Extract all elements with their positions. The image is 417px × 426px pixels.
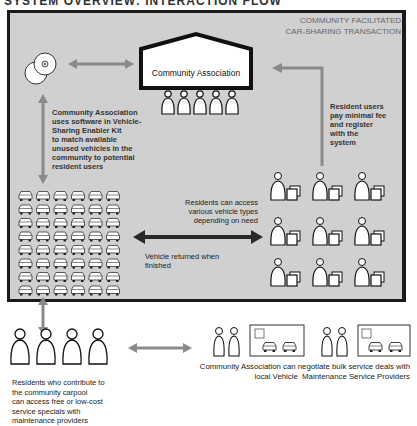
arrow-vehicle-exchange xyxy=(133,230,263,244)
annotation-line: community to potential xyxy=(52,153,141,162)
software-discs xyxy=(24,52,60,86)
annotation-line: various vehicle types xyxy=(170,207,258,216)
annotation-line: uses software in Vehicle- xyxy=(52,117,141,126)
double-arrow-icon xyxy=(128,342,192,354)
software-annotation: Community Association uses software in V… xyxy=(52,108,141,171)
page-header-title: SYSTEM OVERVIEW: INTERACTION FLOW xyxy=(4,0,282,8)
annotation-line: Community Association can negotiate bulk… xyxy=(196,362,410,372)
association-members xyxy=(160,90,240,118)
elbow-arrow-icon xyxy=(272,62,328,168)
annotation-line: the community carpool xyxy=(12,388,105,398)
annotation-line: unused vehicles in the xyxy=(52,144,141,153)
annotation-line: pay minimal fee xyxy=(330,111,386,120)
double-arrow-icon xyxy=(68,58,134,70)
annotation-line: to match available xyxy=(52,135,141,144)
person-icon xyxy=(10,328,110,368)
access-annotation: Residents can access various vehicle typ… xyxy=(170,198,258,225)
arrow-software-association xyxy=(68,58,134,70)
car-icon xyxy=(19,192,120,296)
double-arrow-icon xyxy=(133,230,263,244)
annotation-line: Residents can access xyxy=(170,198,258,207)
annotation-line: and register xyxy=(330,120,386,129)
return-annotation: Vehicle returned when finished xyxy=(145,252,219,270)
resident-users-grid xyxy=(270,172,400,292)
arrow-contributors-providers xyxy=(128,342,192,354)
annotation-line: finished xyxy=(145,261,219,270)
contributors-annotation: Residents who contribute to the communit… xyxy=(12,378,105,426)
people-group-icon xyxy=(160,90,240,118)
providers-annotation: Community Association can negotiate bulk… xyxy=(196,362,410,382)
annotation-line: Sharing Enabler Kit xyxy=(52,126,141,135)
annotation-line: resident users xyxy=(52,162,141,171)
annotation-line: system xyxy=(330,138,386,147)
service-shop-icon xyxy=(212,324,412,358)
disc-icon xyxy=(24,52,60,86)
maintenance-providers xyxy=(212,324,412,358)
arrow-software-vehicles xyxy=(37,94,49,184)
house-icon xyxy=(138,32,254,92)
community-association-building xyxy=(138,32,254,92)
contributors-group xyxy=(10,328,110,368)
vehicle-pool xyxy=(18,190,124,298)
car-grid xyxy=(18,190,124,298)
annotation-line: local Vehicle Maintenance Service Provid… xyxy=(196,372,410,382)
arrow-fee-registration xyxy=(272,62,328,168)
annotation-line: Community Association xyxy=(52,108,141,117)
fee-annotation: Resident users pay minimal fee and regis… xyxy=(330,102,386,147)
annotation-line: Vehicle returned when xyxy=(145,252,219,261)
annotation-line: with the xyxy=(330,129,386,138)
annotation-line: Residents who contribute to xyxy=(12,378,105,388)
community-association-label: Community Association xyxy=(148,68,244,78)
annotation-line: can access free or low-cost xyxy=(12,397,105,407)
annotation-line: depending on need xyxy=(170,216,258,225)
annotation-line: maintenance providers xyxy=(12,416,105,426)
panel-title: COMMUNITY FACILITATED CAR-SHARING TRANSA… xyxy=(286,15,401,37)
annotation-line: service specials with xyxy=(12,407,105,417)
vertical-double-arrow-icon xyxy=(37,94,49,184)
person-with-document-icon xyxy=(270,172,400,292)
annotation-line: Resident users xyxy=(330,102,386,111)
panel-title-line-1: COMMUNITY FACILITATED xyxy=(286,15,401,26)
panel-title-line-2: CAR-SHARING TRANSACTION xyxy=(286,26,401,37)
